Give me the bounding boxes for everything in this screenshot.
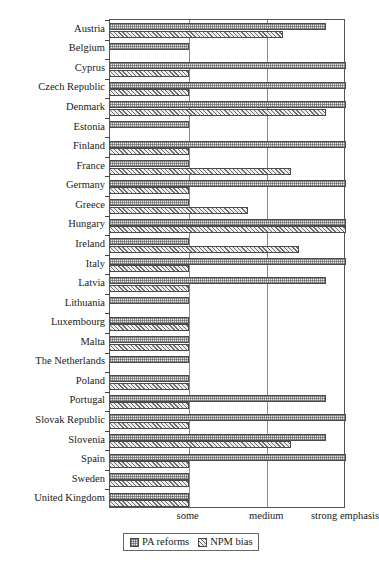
y-axis-tick bbox=[105, 392, 110, 393]
y-axis-label: Estonia bbox=[0, 121, 105, 132]
y-axis-label: Portugal bbox=[0, 394, 105, 405]
bar-pa-reforms bbox=[110, 356, 189, 363]
bar-row bbox=[110, 353, 344, 373]
bar-npm-bias bbox=[110, 285, 189, 292]
y-axis-label: Poland bbox=[0, 375, 105, 386]
y-axis-tick bbox=[105, 470, 110, 471]
bar-row bbox=[110, 450, 344, 470]
bar-row bbox=[110, 118, 344, 138]
bar-npm-bias bbox=[110, 480, 189, 487]
bar-pa-reforms bbox=[110, 317, 189, 324]
bar-row bbox=[110, 176, 344, 196]
y-axis-label: Finland bbox=[0, 140, 105, 151]
y-axis-label: United Kingdom bbox=[0, 492, 105, 503]
y-axis-label: Cyprus bbox=[0, 62, 105, 73]
y-axis-tick bbox=[105, 372, 110, 373]
bar-row bbox=[110, 40, 344, 60]
y-axis-tick bbox=[105, 489, 110, 490]
y-axis-tick bbox=[105, 40, 110, 41]
y-axis-tick bbox=[105, 255, 110, 256]
bar-pa-reforms bbox=[110, 336, 189, 343]
bar-npm-bias bbox=[110, 187, 189, 194]
bar-npm-bias bbox=[110, 31, 283, 38]
bar-row bbox=[110, 20, 344, 40]
bar-row bbox=[110, 372, 344, 392]
bar-npm-bias bbox=[110, 109, 326, 116]
y-axis-tick bbox=[105, 235, 110, 236]
bar-row bbox=[110, 137, 344, 157]
y-axis-tick bbox=[105, 20, 110, 21]
y-axis-label: The Netherlands bbox=[0, 355, 105, 366]
bar-rows bbox=[110, 20, 344, 507]
y-axis-label: Czech Republic bbox=[0, 81, 105, 92]
bar-pa-reforms bbox=[110, 43, 189, 50]
x-axis-tick-label: strong emphasis bbox=[311, 510, 379, 521]
bar-row bbox=[110, 470, 344, 490]
y-axis-tick bbox=[105, 333, 110, 334]
y-axis-tick bbox=[105, 353, 110, 354]
y-axis-tick bbox=[105, 431, 110, 432]
y-axis-label: Luxembourg bbox=[0, 316, 105, 327]
bar-npm-bias bbox=[110, 402, 189, 409]
y-axis-label: Austria bbox=[0, 23, 105, 34]
bar-pa-reforms bbox=[110, 375, 189, 382]
bar-pa-reforms bbox=[110, 493, 189, 500]
y-axis-tick bbox=[105, 294, 110, 295]
bar-npm-bias bbox=[110, 148, 189, 155]
bar-pa-reforms bbox=[110, 180, 346, 187]
bar-pa-reforms bbox=[110, 141, 346, 148]
bar-row bbox=[110, 431, 344, 451]
legend-item-npm-bias: NPM bias bbox=[198, 536, 252, 548]
y-axis-tick bbox=[105, 118, 110, 119]
bar-row bbox=[110, 313, 344, 333]
y-axis-tick bbox=[105, 313, 110, 314]
y-axis-label: France bbox=[0, 160, 105, 171]
bar-pa-reforms bbox=[110, 473, 189, 480]
bar-npm-bias bbox=[110, 441, 291, 448]
bar-npm-bias bbox=[110, 70, 189, 77]
bar-row bbox=[110, 333, 344, 353]
y-axis-label: Hungary bbox=[0, 218, 105, 229]
bar-pa-reforms bbox=[110, 23, 326, 30]
bar-row bbox=[110, 157, 344, 177]
bar-pa-reforms bbox=[110, 297, 189, 304]
bar-npm-bias bbox=[110, 246, 299, 253]
y-axis-label: Sweden bbox=[0, 473, 105, 484]
bar-npm-bias bbox=[110, 324, 189, 331]
dotted-swatch-icon bbox=[130, 538, 139, 547]
y-axis-label: Slovenia bbox=[0, 434, 105, 445]
bar-pa-reforms bbox=[110, 395, 326, 402]
y-axis-label: Malta bbox=[0, 336, 105, 347]
legend-label-npm-bias: NPM bias bbox=[210, 536, 252, 548]
bar-npm-bias bbox=[110, 461, 189, 468]
bar-row bbox=[110, 59, 344, 79]
y-axis-tick bbox=[105, 411, 110, 412]
y-axis-tick bbox=[105, 157, 110, 158]
y-axis-tick bbox=[105, 274, 110, 275]
y-axis-label: Spain bbox=[0, 453, 105, 464]
bar-pa-reforms bbox=[110, 62, 346, 69]
plot-area bbox=[109, 19, 345, 508]
bar-row bbox=[110, 274, 344, 294]
y-axis-tick bbox=[105, 216, 110, 217]
bar-pa-reforms bbox=[110, 454, 346, 461]
bar-pa-reforms bbox=[110, 101, 346, 108]
y-axis-tick bbox=[105, 79, 110, 80]
bar-npm-bias bbox=[110, 168, 291, 175]
bar-row bbox=[110, 411, 344, 431]
bar-row bbox=[110, 196, 344, 216]
x-axis-labels: somemediumstrong emphasis bbox=[109, 510, 345, 526]
y-axis-label: Germany bbox=[0, 179, 105, 190]
y-axis-labels: AustriaBelgiumCyprusCzech RepublicDenmar… bbox=[0, 19, 105, 508]
y-axis-label: Belgium bbox=[0, 42, 105, 53]
chart-legend: PA reforms NPM bias bbox=[123, 533, 259, 551]
legend-label-pa-reforms: PA reforms bbox=[142, 536, 189, 548]
y-axis-tick bbox=[105, 196, 110, 197]
bar-pa-reforms bbox=[110, 160, 189, 167]
bar-pa-reforms bbox=[110, 82, 346, 89]
bar-pa-reforms bbox=[110, 414, 346, 421]
y-axis-label: Denmark bbox=[0, 101, 105, 112]
bar-pa-reforms bbox=[110, 434, 326, 441]
x-axis-tick-label: medium bbox=[249, 510, 283, 521]
